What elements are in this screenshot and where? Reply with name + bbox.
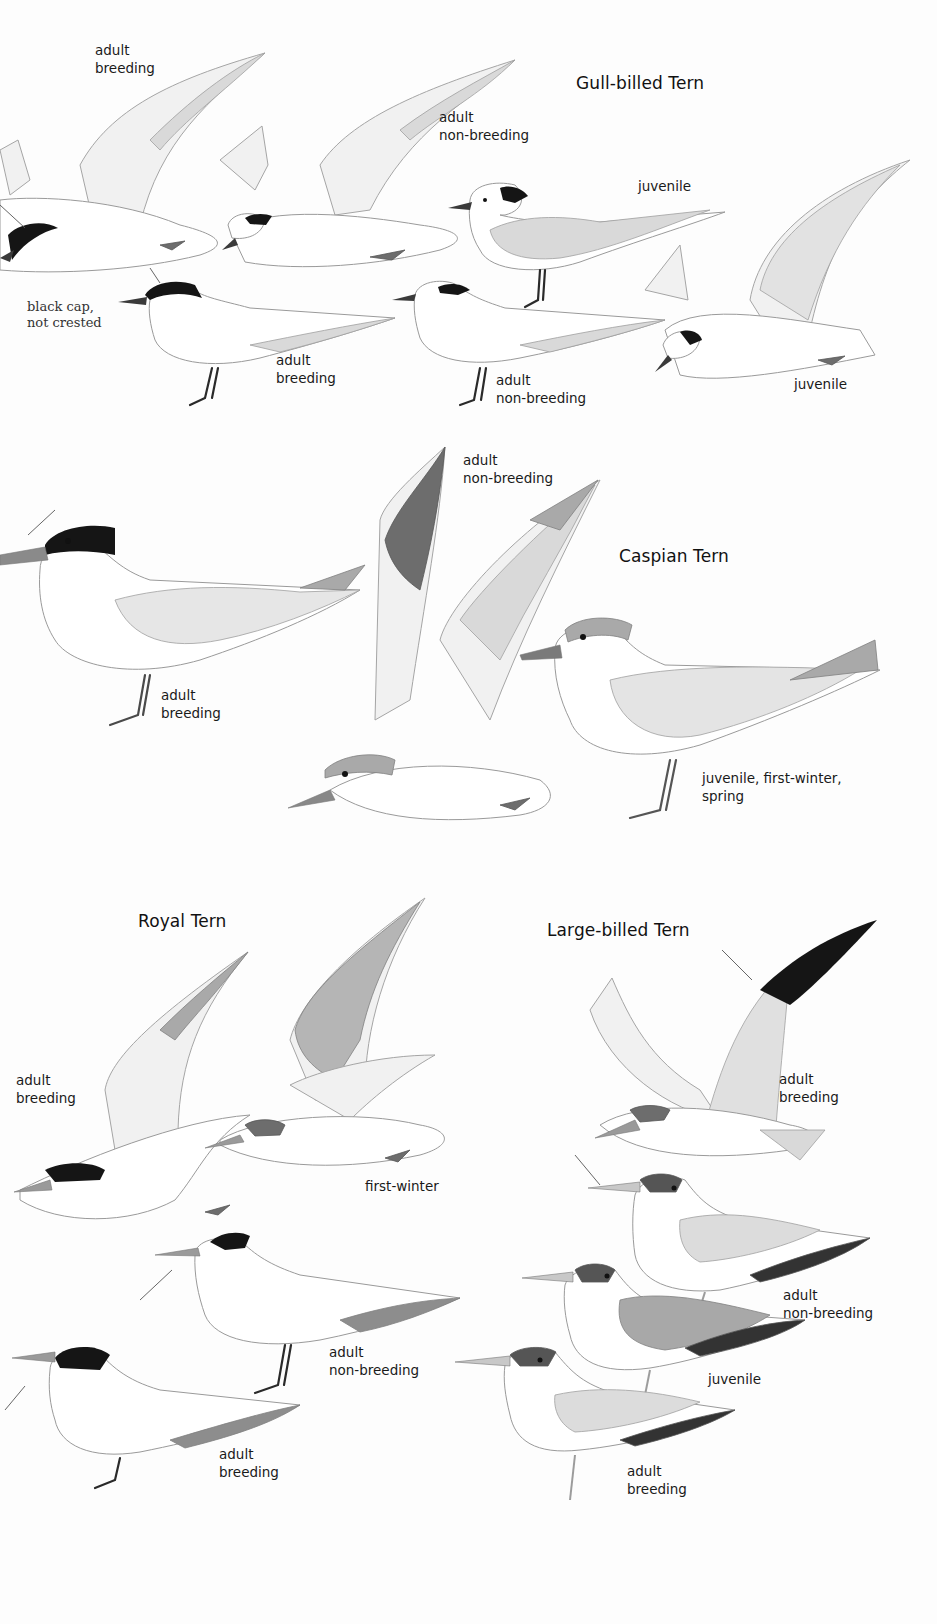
label-large-billed-standing-adult-breeding: adult breeding: [627, 1462, 687, 1498]
label-gull-billed-flying-adult-breeding: adult breeding: [95, 41, 155, 77]
note-black-cap-not-crested: black cap, not crested: [27, 299, 102, 331]
label-gull-billed-standing-adult-breeding: adult breeding: [276, 351, 336, 387]
label-large-billed-flying-adult-breeding: adult breeding: [779, 1070, 839, 1106]
large-billed-tern-standing-breeding-illustration: [455, 1347, 735, 1500]
field-guide-plate: Gull-billed Tern Caspian Tern Royal Tern…: [0, 0, 937, 1624]
label-gull-billed-standing-adult-nonbreeding: adult non-breeding: [496, 371, 586, 407]
species-title-gull-billed-tern: Gull-billed Tern: [576, 73, 704, 93]
label-royal-standing-adult-nonbreeding: adult non-breeding: [329, 1343, 419, 1379]
label-gull-billed-flying-juvenile: juvenile: [794, 375, 847, 393]
label-royal-standing-adult-breeding: adult breeding: [219, 1445, 279, 1481]
label-caspian-flying-adult-nonbreeding: adult non-breeding: [463, 451, 553, 487]
tern-illustrations: [0, 0, 937, 1624]
gull-billed-tern-flying-nonbreeding-illustration: [220, 60, 515, 267]
species-title-royal-tern: Royal Tern: [138, 911, 226, 931]
label-royal-flying-adult-breeding: adult breeding: [16, 1071, 76, 1107]
label-caspian-standing-juvenile-firstwinter-spring: juvenile, first-winter, spring: [702, 769, 842, 805]
label-gull-billed-standing-juvenile: juvenile: [638, 177, 691, 195]
caspian-tern-flying-nonbreeding-illustration: [288, 447, 600, 820]
royal-tern-flying-firstwinter-illustration: [205, 898, 444, 1165]
species-title-large-billed-tern: Large-billed Tern: [547, 920, 690, 940]
label-large-billed-standing-juvenile: juvenile: [708, 1370, 761, 1388]
large-billed-tern-flying-breeding-illustration: [590, 920, 877, 1160]
label-royal-flying-firstwinter: first-winter: [365, 1177, 439, 1195]
gull-billed-tern-standing-breeding-illustration: [118, 268, 395, 405]
label-gull-billed-flying-adult-nonbreeding: adult non-breeding: [439, 108, 529, 144]
species-title-caspian-tern: Caspian Tern: [619, 546, 729, 566]
label-large-billed-standing-adult-nonbreeding: adult non-breeding: [783, 1286, 873, 1322]
label-caspian-standing-adult-breeding: adult breeding: [161, 686, 221, 722]
